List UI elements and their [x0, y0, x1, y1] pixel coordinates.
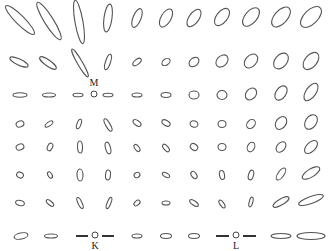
ellipse-glyph: [105, 197, 113, 209]
ellipse-glyph: [248, 197, 254, 208]
ellipse-glyph: [161, 57, 172, 67]
ellipse-glyph: [161, 234, 172, 239]
ellipse-glyph: [132, 234, 142, 238]
ellipse-glyph: [243, 86, 259, 102]
ellipse-glyph: [190, 170, 199, 179]
ellipse-glyph: [77, 141, 82, 153]
ellipse-glyph: [133, 143, 141, 152]
point-labels: M K L: [90, 77, 240, 251]
ellipse-glyph-grid: [3, 0, 325, 240]
ellipse-glyph: [14, 232, 29, 241]
ellipse-glyph: [271, 234, 291, 239]
ellipse-glyph: [161, 143, 170, 153]
ellipse-glyph: [272, 84, 289, 103]
ellipse-glyph: [273, 114, 289, 131]
ellipse-glyph: [214, 53, 231, 70]
ellipse-glyph: [15, 120, 25, 128]
ellipse-glyph: [46, 142, 54, 151]
point-m-marker: [91, 91, 97, 97]
ellipse-glyph: [103, 118, 114, 132]
ellipse-glyph: [16, 171, 25, 179]
ellipse-glyph: [70, 48, 90, 78]
ellipse-glyph: [301, 81, 321, 103]
ellipse-glyph: [219, 170, 225, 180]
ellipse-glyph: [297, 3, 325, 31]
ellipse-glyph: [161, 119, 171, 128]
label-m: M: [90, 77, 99, 88]
ellipse-glyph: [13, 93, 27, 97]
ellipse-glyph: [272, 195, 291, 209]
ellipse-glyph: [130, 7, 145, 29]
ellipse-glyph: [242, 51, 261, 70]
ellipse-glyph: [189, 198, 200, 207]
ellipse-glyph: [105, 170, 111, 180]
ellipse-glyph: [15, 143, 25, 151]
label-k: K: [91, 240, 99, 251]
ellipse-glyph: [133, 171, 141, 178]
ellipse-glyph: [77, 169, 83, 181]
ellipse-glyph: [297, 233, 325, 240]
ellipse-glyph: [34, 0, 65, 42]
ellipse-glyph: [302, 138, 320, 156]
ellipse-glyph: [133, 199, 141, 207]
ellipse-glyph: [246, 141, 257, 153]
point-l-marker: [233, 232, 239, 238]
label-l: L: [233, 240, 239, 251]
ellipse-glyph: [161, 93, 171, 98]
ellipse-glyph: [218, 121, 226, 128]
diagram-canvas: M K L: [0, 0, 331, 251]
ellipse-glyph: [275, 167, 288, 182]
ellipse-glyph: [239, 5, 262, 30]
ellipse-glyph: [73, 93, 83, 97]
ellipse-glyph: [300, 49, 322, 72]
labeled-points: [91, 91, 239, 238]
ellipse-glyph: [47, 171, 54, 179]
ellipse-glyph: [300, 164, 321, 181]
ellipse-glyph: [302, 112, 320, 131]
ellipse-glyph: [102, 4, 114, 33]
ellipse-glyph: [76, 197, 85, 210]
ellipse-glyph: [189, 120, 199, 129]
ellipse-glyph: [45, 199, 54, 208]
ellipse-glyph: [268, 4, 294, 31]
ellipse-glyph: [187, 55, 201, 68]
ellipse-glyph: [15, 199, 25, 206]
ellipse-field-diagram: M K L: [0, 0, 331, 251]
ellipse-glyph: [247, 170, 254, 181]
ellipse-glyph: [157, 7, 176, 29]
ellipse-glyph: [212, 6, 233, 29]
ellipse-glyph: [38, 55, 58, 71]
ellipse-glyph: [184, 7, 204, 29]
ellipse-glyph: [274, 140, 288, 154]
ellipse-glyph: [71, 0, 87, 44]
ellipse-glyph: [217, 91, 227, 100]
ellipse-glyph: [132, 118, 142, 127]
ellipse-glyph: [245, 118, 257, 131]
ellipse-glyph: [132, 93, 142, 97]
ellipse-glyph: [189, 234, 200, 239]
ellipse-glyph: [3, 3, 38, 38]
ellipse-glyph: [103, 93, 113, 97]
ellipse-glyph: [189, 142, 199, 152]
ellipse-glyph: [189, 91, 199, 99]
ellipse-glyph: [218, 144, 226, 151]
ellipse-glyph: [162, 201, 170, 205]
ellipse-glyph: [103, 54, 113, 71]
ellipse-glyph: [44, 120, 54, 128]
ellipse-glyph: [298, 192, 325, 207]
ellipse-glyph: [218, 199, 226, 209]
point-k-marker: [92, 232, 98, 238]
ellipse-glyph: [104, 142, 112, 155]
ellipse-glyph: [75, 119, 82, 130]
ellipse-glyph: [132, 57, 143, 67]
ellipse-glyph: [9, 55, 30, 69]
ellipse-glyph: [45, 234, 58, 238]
ellipse-glyph: [43, 93, 56, 97]
ellipse-glyph: [271, 50, 292, 72]
ellipse-glyph: [162, 171, 171, 178]
